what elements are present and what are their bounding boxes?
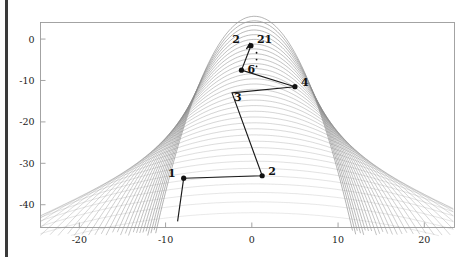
contour-line xyxy=(41,161,454,216)
omitted-iteration-dot xyxy=(256,52,258,54)
x-tick-label: -10 xyxy=(158,234,173,245)
iterate-label: 2 xyxy=(232,33,240,46)
contour-line xyxy=(41,202,454,234)
iterate-label: 6 xyxy=(247,63,255,76)
iterate-label: 4 xyxy=(301,76,309,89)
omitted-iteration-dot xyxy=(256,65,258,67)
contour-line xyxy=(41,154,454,218)
contour-plot: 12346221 -20-1001020 0-10-20-30-40 xyxy=(0,0,468,257)
iterate-marker xyxy=(260,173,265,178)
y-tick-label: -10 xyxy=(19,75,34,86)
contour-line xyxy=(82,106,426,235)
contour-line xyxy=(50,129,453,235)
contour-lines-group xyxy=(41,16,454,235)
iterate-label: 1 xyxy=(168,167,176,180)
x-axis-tick-labels: -20-1001020 xyxy=(72,234,431,245)
iterate-label: 2 xyxy=(268,165,276,178)
x-tick-label: -20 xyxy=(72,234,87,245)
y-axis-ticks xyxy=(41,39,46,205)
contour-line xyxy=(41,184,454,221)
iterate-marker xyxy=(292,84,297,89)
iterate-label: 3 xyxy=(234,91,242,104)
omitted-iteration-dot xyxy=(256,59,258,61)
x-tick-label: 0 xyxy=(249,234,255,245)
contour-line xyxy=(41,176,454,218)
iterate-marker xyxy=(248,43,253,48)
iterate-marker xyxy=(181,176,186,181)
iterate-label: 21 xyxy=(257,33,272,46)
figure-canvas: 12346221 -20-1001020 0-10-20-30-40 xyxy=(0,0,468,257)
y-tick-label: -20 xyxy=(19,116,34,127)
search-path-group xyxy=(178,43,295,222)
iterate-marker xyxy=(239,68,244,73)
y-tick-label: 0 xyxy=(28,34,34,45)
x-tick-label: 20 xyxy=(418,234,430,245)
y-tick-label: -40 xyxy=(19,199,34,210)
search-path-line xyxy=(178,43,295,222)
x-tick-label: 10 xyxy=(332,234,344,245)
y-tick-label: -30 xyxy=(19,158,34,169)
y-axis-tick-labels: 0-10-20-30-40 xyxy=(19,34,34,211)
contour-line xyxy=(58,123,450,236)
contour-line xyxy=(89,100,420,235)
